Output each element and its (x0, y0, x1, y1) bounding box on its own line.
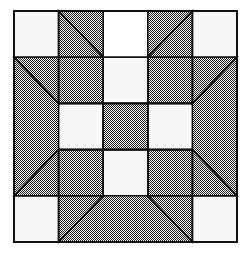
center-cell-top-middle (103, 57, 148, 103)
corner-bottom-left (14, 196, 59, 242)
corner-top-left (14, 11, 59, 57)
center-cell-top-right (148, 57, 193, 103)
center-cell-bottom-left (59, 150, 104, 196)
corner-bottom-right (192, 196, 237, 242)
center-cell-bottom-middle (103, 150, 148, 196)
quilt-block-figure: Eight-Pointed Star Quilt Block Black and… (0, 0, 250, 254)
center-cell-middle-right (148, 103, 193, 149)
center-cell-middle-left (59, 103, 104, 149)
center-cell-top-left (59, 57, 104, 103)
center-cell-bottom-right (148, 150, 193, 196)
center-cell-middle-middle (103, 103, 148, 149)
corner-top-right (192, 11, 237, 57)
quilt-block-drawing (0, 0, 250, 254)
